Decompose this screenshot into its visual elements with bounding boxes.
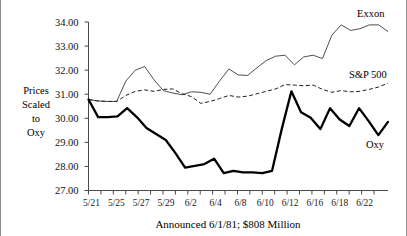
y-axis-title-line-3: to xyxy=(32,113,40,124)
y-tick-label: 30.00 xyxy=(55,113,79,124)
x-tick-label: 6/10 xyxy=(257,198,274,208)
y-axis-title: Prices Scaled to Oxy xyxy=(22,85,51,138)
price-chart: 27.0028.0029.0030.0031.0032.0033.0034.00… xyxy=(0,0,407,236)
y-tick-label: 31.00 xyxy=(55,89,79,100)
y-tick-label: 28.00 xyxy=(55,161,79,172)
y-axis-title-line-4: Oxy xyxy=(27,127,46,138)
y-tick-label: 27.00 xyxy=(55,185,79,196)
chart-page: 27.0028.0029.0030.0031.0032.0033.0034.00… xyxy=(0,0,407,236)
y-axis-title-line-2: Scaled xyxy=(22,99,51,110)
y-tick-marks xyxy=(85,22,89,191)
chart-caption: Announced 6/1/81; $808 Million xyxy=(155,218,301,230)
y-tick-label: 34.00 xyxy=(55,17,79,28)
series-line-exxon xyxy=(89,25,389,102)
x-tick-label: 6/2 xyxy=(185,198,197,208)
y-tick-label: 29.00 xyxy=(55,137,79,148)
series-line-oxy xyxy=(89,91,389,173)
x-tick-label: 6/16 xyxy=(306,198,323,208)
y-tick-label: 33.00 xyxy=(55,41,79,52)
x-tick-label: 5/25 xyxy=(108,198,125,208)
series-line-sp500 xyxy=(89,83,389,103)
x-tick-label: 6/22 xyxy=(356,198,373,208)
x-tick-label: 6/4 xyxy=(210,198,222,208)
x-tick-label: 5/21 xyxy=(83,198,100,208)
x-tick-label: 5/27 xyxy=(133,198,150,208)
series-label-oxy: Oxy xyxy=(366,139,385,150)
y-axis-title-line-1: Prices xyxy=(23,85,49,96)
x-tick-label: 5/29 xyxy=(158,198,175,208)
x-tick-labels: 5/215/255/275/296/26/46/86/106/126/166/1… xyxy=(83,198,373,208)
x-tick-label: 6/18 xyxy=(331,198,348,208)
y-tick-labels: 27.0028.0029.0030.0031.0032.0033.0034.00 xyxy=(55,17,79,197)
y-tick-label: 32.00 xyxy=(55,65,79,76)
series-label-exxon: Exxon xyxy=(357,8,385,19)
x-tick-label: 6/12 xyxy=(282,198,299,208)
x-tick-marks xyxy=(89,191,375,195)
x-tick-label: 6/8 xyxy=(234,198,246,208)
series-label-sp500: S&P 500 xyxy=(349,69,387,80)
